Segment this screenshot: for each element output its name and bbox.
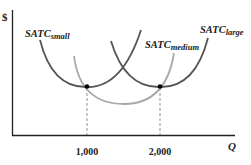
label-satc-small: SATCsmall	[25, 28, 70, 41]
intersection-point-1000	[85, 84, 90, 89]
curve-satc-medium	[74, 53, 174, 104]
label-satc-medium: SATCmedium	[145, 39, 199, 52]
chart-canvas: $ Q 1,000 2,000 SATCsmall SATCmedium SAT…	[0, 0, 251, 165]
x-tick-1000: 1,000	[76, 146, 99, 157]
intersection-point-2000	[158, 84, 163, 89]
y-axis-label: $	[2, 11, 8, 23]
label-satc-large: SATClarge	[200, 24, 244, 37]
x-axis-label: Q	[228, 140, 236, 152]
x-tick-2000: 2,000	[149, 146, 172, 157]
